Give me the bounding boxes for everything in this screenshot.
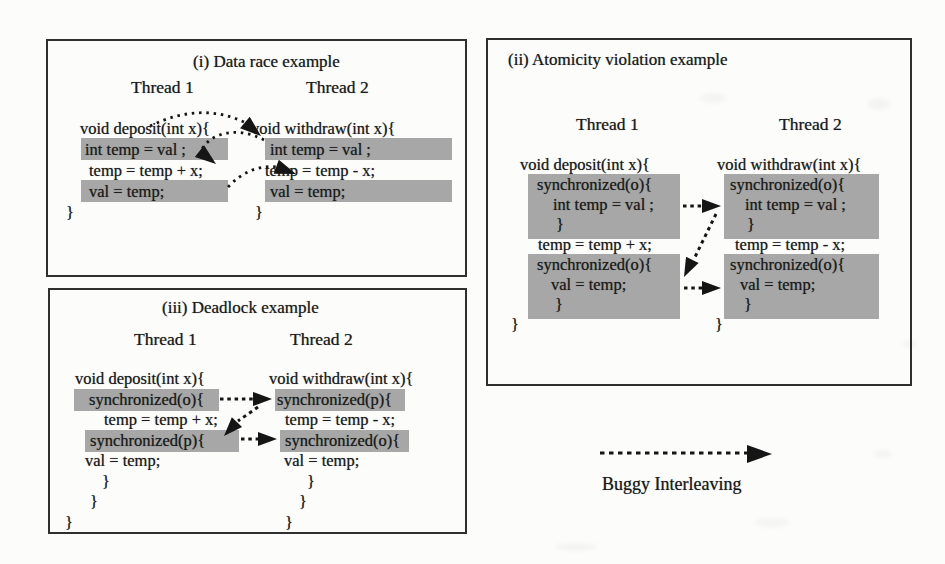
code-line: int temp = val ; bbox=[251, 139, 395, 160]
legend-label: Buggy Interleaving bbox=[602, 474, 741, 495]
code-line: val = temp; bbox=[511, 275, 654, 295]
thread1-code: void deposit(int x){ int temp = val ; te… bbox=[66, 118, 210, 223]
scan-noise bbox=[555, 543, 597, 551]
code-line: } bbox=[65, 513, 218, 534]
code-line: } bbox=[715, 295, 861, 315]
code-line: temp = temp + x; bbox=[66, 160, 210, 181]
code-line: synchronized(o){ bbox=[715, 255, 861, 275]
code-line: } bbox=[511, 215, 654, 235]
code-line: void deposit(int x){ bbox=[66, 118, 210, 139]
code-line: } bbox=[269, 492, 413, 513]
panel-title-atomicity: (ii) Atomicity violation example bbox=[508, 50, 728, 70]
code-line: synchronized(o){ bbox=[65, 390, 218, 411]
code-line: void withdraw(int x){ bbox=[251, 118, 395, 139]
code-line: int temp = val ; bbox=[715, 195, 861, 215]
code-line: int temp = val ; bbox=[66, 139, 210, 160]
panel-title-deadlock: (iii) Deadlock example bbox=[162, 298, 319, 318]
code-line: synchronized(o){ bbox=[511, 175, 654, 195]
code-line: void withdraw(int x){ bbox=[715, 155, 861, 175]
thread2-label: Thread 2 bbox=[779, 114, 842, 135]
code-line: } bbox=[269, 513, 413, 534]
code-line: temp = temp - x; bbox=[269, 410, 413, 431]
thread1-label: Thread 1 bbox=[134, 329, 197, 350]
code-line: } bbox=[66, 202, 210, 223]
legend-buggy-interleaving-arrow bbox=[600, 445, 772, 463]
code-line: synchronized(o){ bbox=[715, 175, 861, 195]
thread2-code: void withdraw(int x){ int temp = val ; t… bbox=[251, 118, 395, 223]
scanned-figure-page: (i) Data race example Thread 1 Thread 2 … bbox=[0, 0, 945, 564]
code-line: } bbox=[715, 215, 861, 235]
panel-deadlock: (iii) Deadlock example Thread 1 Thread 2… bbox=[48, 288, 467, 534]
scan-noise bbox=[755, 518, 789, 527]
thread2-label: Thread 2 bbox=[306, 77, 369, 98]
code-line: val = temp; bbox=[269, 451, 413, 472]
code-line: void withdraw(int x){ bbox=[269, 369, 413, 390]
code-line: } bbox=[251, 202, 395, 223]
code-line: temp = temp + x; bbox=[511, 235, 654, 255]
panel-title-data-race: (i) Data race example bbox=[48, 52, 485, 72]
thread2-code: void withdraw(int x){ synchronized(p){ t… bbox=[269, 369, 413, 533]
code-line: temp = temp - x; bbox=[251, 160, 395, 181]
code-line: int temp = val ; bbox=[511, 195, 654, 215]
code-line: } bbox=[269, 472, 413, 493]
code-line: val = temp; bbox=[715, 275, 861, 295]
code-line: } bbox=[65, 492, 218, 513]
code-line: val = temp; bbox=[66, 181, 210, 202]
code-line: synchronized(p){ bbox=[269, 390, 413, 411]
thread1-code: void deposit(int x){ synchronized(o){ in… bbox=[511, 155, 654, 335]
code-line: void deposit(int x){ bbox=[65, 369, 218, 390]
panel-data-race: (i) Data race example Thread 1 Thread 2 … bbox=[46, 39, 467, 277]
code-line: void deposit(int x){ bbox=[511, 155, 654, 175]
scan-noise bbox=[874, 450, 892, 458]
code-line: synchronized(o){ bbox=[269, 431, 413, 452]
code-line: } bbox=[511, 295, 654, 315]
thread2-code: void withdraw(int x){ synchronized(o){ i… bbox=[715, 155, 861, 335]
thread1-code: void deposit(int x){ synchronized(o){ te… bbox=[65, 369, 218, 533]
code-line: synchronized(o){ bbox=[511, 255, 654, 275]
code-line: } bbox=[715, 315, 861, 335]
thread1-label: Thread 1 bbox=[576, 114, 639, 135]
code-line: synchronized(p){ bbox=[65, 431, 218, 452]
code-line: } bbox=[511, 315, 654, 335]
code-line: temp = temp - x; bbox=[715, 235, 861, 255]
thread2-label: Thread 2 bbox=[290, 329, 353, 350]
code-line: val = temp; bbox=[65, 451, 218, 472]
thread1-label: Thread 1 bbox=[131, 77, 194, 98]
panel-atomicity-violation: (ii) Atomicity violation example Thread … bbox=[486, 38, 912, 386]
code-line: val = temp; bbox=[251, 181, 395, 202]
code-line: } bbox=[65, 472, 218, 493]
code-line: temp = temp + x; bbox=[65, 410, 218, 431]
